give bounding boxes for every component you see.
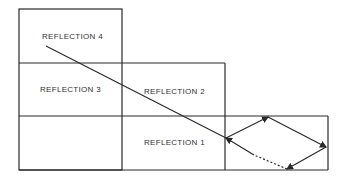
- ray-segment-1: [226, 117, 268, 138]
- label-reflection-3: REFLECTION 3: [40, 85, 101, 94]
- ray-segment-2: [268, 117, 326, 147]
- ray-segment-3: [287, 147, 326, 169]
- label-reflection-1: REFLECTION 1: [144, 138, 205, 147]
- ray-segment-5: [226, 138, 254, 155]
- ray-segment-4-dashed: [254, 155, 287, 169]
- label-reflection-2: REFLECTION 2: [144, 87, 205, 96]
- label-reflection-4: REFLECTION 4: [42, 32, 103, 41]
